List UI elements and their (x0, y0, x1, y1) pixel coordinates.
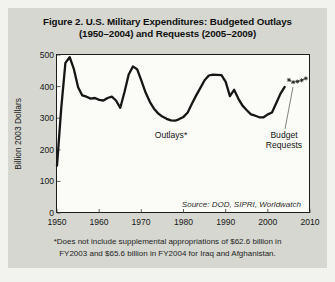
outlays-series-label: Outlays* (145, 130, 197, 140)
source-credit: Source: DOD, SIPRI, Worldwatch (182, 200, 301, 209)
footnote: *Does not include supplemental appropria… (8, 236, 327, 259)
outlays-line (57, 57, 285, 165)
y-tick-label-100: 100 (26, 176, 54, 186)
requests-callout-line (285, 87, 293, 129)
x-tick-label-1990: 1990 (211, 217, 241, 227)
x-tick-label-1960: 1960 (84, 217, 114, 227)
y-tick-label-400: 400 (26, 82, 54, 92)
x-tick-label-1980: 1980 (169, 217, 199, 227)
y-axis-title: Billion 2003 Dollars (11, 55, 25, 213)
y-tick-label-500: 500 (26, 50, 54, 60)
y-tick-label-300: 300 (26, 113, 54, 123)
figure-title-line2: (1950–2004) and Requests (2005–2009) (8, 28, 327, 40)
figure-title: Figure 2. U.S. Military Expenditures: Bu… (8, 16, 327, 40)
budget-requests-series-label: Budget Requests (258, 130, 310, 150)
x-tick-label-1970: 1970 (126, 217, 156, 227)
x-tick-label-1950: 1950 (42, 217, 72, 227)
x-tick-label-2010: 2010 (295, 217, 325, 227)
x-tick-label-2000: 2000 (253, 217, 283, 227)
requests-markers (287, 76, 308, 84)
figure-panel: Figure 2. U.S. Military Expenditures: Bu… (8, 8, 327, 268)
y-tick-label-200: 200 (26, 145, 54, 155)
figure-title-line1: Figure 2. U.S. Military Expenditures: Bu… (8, 16, 327, 28)
